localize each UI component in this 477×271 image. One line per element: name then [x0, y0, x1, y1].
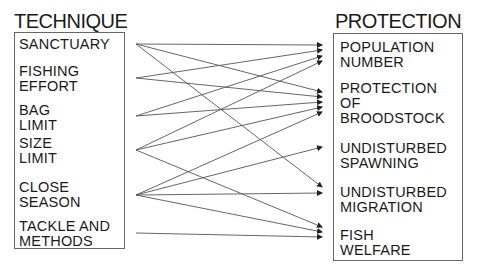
arrow-tackle-welfare [136, 233, 322, 237]
arrow-season-migration [136, 193, 322, 195]
arrow-sanctuary-population [136, 44, 322, 45]
arrow-effort-broodstock [136, 78, 322, 97]
arrow-season-broodstock [136, 112, 322, 195]
link-arrows [0, 0, 477, 271]
arrow-sanctuary-broodstock [136, 44, 322, 92]
arrow-season-welfare [136, 195, 322, 232]
arrow-season-spawning [136, 147, 322, 195]
arrow-size-population [136, 61, 322, 150]
arrow-effort-population [136, 50, 322, 78]
arrow-size-welfare [136, 150, 322, 227]
